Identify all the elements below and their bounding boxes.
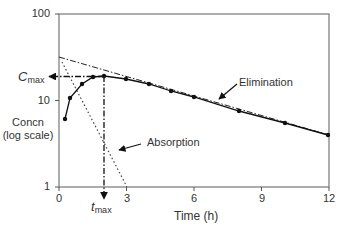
elimination-arrow xyxy=(219,84,237,99)
data-point xyxy=(326,133,330,137)
y-tick-100: 100 xyxy=(20,8,50,19)
data-point xyxy=(63,117,67,121)
elimination-label: Elimination xyxy=(239,77,293,88)
x-tick-9: 9 xyxy=(252,193,272,204)
plot-frame xyxy=(59,14,329,187)
y-axis-label-line1: Concn xyxy=(0,116,58,129)
data-point xyxy=(147,82,151,86)
data-point xyxy=(237,109,241,113)
y-axis-label-line2: (log scale) xyxy=(0,129,58,142)
data-point xyxy=(80,82,84,86)
data-point xyxy=(283,121,287,125)
tmax-label: tmax xyxy=(91,200,112,215)
x-tick-6: 6 xyxy=(184,193,204,204)
absorption-arrow xyxy=(119,144,141,150)
cmax-label: Cmax xyxy=(18,70,44,85)
cmax-symbol: C xyxy=(18,69,27,84)
data-point xyxy=(124,77,128,81)
y-tick-10: 10 xyxy=(20,95,50,106)
y-tick-1: 1 xyxy=(20,181,50,192)
data-point xyxy=(102,74,106,78)
x-tick-12: 12 xyxy=(319,193,339,204)
data-point xyxy=(68,96,72,100)
x-tick-0: 0 xyxy=(49,193,69,204)
cmax-subscript: max xyxy=(27,75,44,85)
x-axis-ticks xyxy=(59,187,329,191)
data-point xyxy=(91,75,95,79)
x-tick-3: 3 xyxy=(117,193,137,204)
data-point xyxy=(169,89,173,93)
data-point xyxy=(192,95,196,99)
x-axis-label: Time (h) xyxy=(174,210,218,222)
absorption-line xyxy=(62,62,127,187)
tmax-subscript: max xyxy=(95,205,112,215)
absorption-label: Absorption xyxy=(147,137,200,148)
